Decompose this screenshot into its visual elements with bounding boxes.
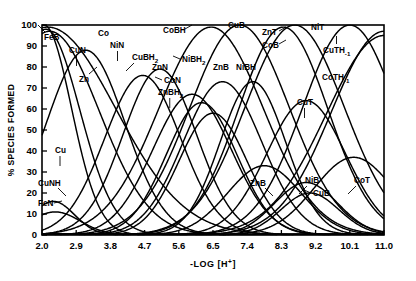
y-tick-label: 30 bbox=[26, 166, 37, 177]
x-tick-label: 3.8 bbox=[104, 240, 117, 251]
curve-label: Co bbox=[98, 29, 109, 38]
x-tick-label: 9.2 bbox=[309, 240, 322, 251]
y-tick-label: 100 bbox=[21, 19, 37, 30]
label-leader-line bbox=[348, 186, 356, 194]
x-axis-title: -LOG [H+] bbox=[190, 258, 236, 270]
y-tick-label: 70 bbox=[26, 82, 37, 93]
curve-label: CuB bbox=[228, 21, 245, 30]
y-tick-label: 0 bbox=[32, 229, 37, 240]
curve-label: ZnN bbox=[152, 63, 168, 72]
x-tick-label: 10.1 bbox=[341, 240, 360, 251]
curve-label: ZnT bbox=[262, 28, 277, 37]
curve-label: ZnBH2 bbox=[158, 88, 184, 99]
curve-label: CoBH bbox=[163, 26, 186, 35]
curve-label: FeB bbox=[44, 33, 60, 42]
label-leader-line bbox=[155, 77, 162, 80]
curve-label: CuN bbox=[69, 46, 86, 55]
curve-label: Zn bbox=[79, 75, 89, 84]
x-tick-label: 11.0 bbox=[375, 240, 393, 251]
speciation-diagram: 2.02.93.84.75.66.57.48.39.210.111.001020… bbox=[0, 0, 416, 281]
species-curve bbox=[42, 94, 384, 234]
label-leader-line bbox=[173, 56, 180, 59]
curve-label: NiBH bbox=[236, 63, 256, 72]
curve-label: NiB bbox=[305, 176, 319, 185]
curve-label: CoB bbox=[262, 41, 279, 50]
curve-label: CuT bbox=[297, 98, 313, 107]
curve-label: CuBH2 bbox=[132, 53, 159, 64]
curve-layer bbox=[42, 25, 384, 235]
x-tick-label: 2.0 bbox=[35, 240, 48, 251]
curve-label: NiBH2 bbox=[182, 55, 206, 66]
x-tick-label: 7.4 bbox=[241, 240, 255, 251]
curve-label: NiN bbox=[110, 41, 124, 50]
curve-label: CuNH bbox=[38, 179, 61, 188]
x-tick-label: 5.6 bbox=[172, 240, 185, 251]
x-tick-label: 4.7 bbox=[138, 240, 151, 251]
y-tick-label: 10 bbox=[26, 208, 37, 219]
chart-figure: 2.02.93.84.75.66.57.48.39.210.111.001020… bbox=[0, 0, 416, 281]
label-leader-line bbox=[279, 40, 286, 44]
y-tick-label: 40 bbox=[26, 145, 37, 156]
curve-label: CoN bbox=[164, 76, 181, 85]
x-tick-label: 2.9 bbox=[70, 240, 83, 251]
curve-label: CuB bbox=[313, 189, 330, 198]
curve-label: ZnB bbox=[213, 63, 229, 72]
x-tick-label: 6.5 bbox=[206, 240, 220, 251]
y-tick-label: 20 bbox=[26, 187, 37, 198]
x-tick-label: 8.3 bbox=[275, 240, 288, 251]
label-leader-line bbox=[58, 188, 66, 196]
curve-label: FeN bbox=[38, 199, 54, 208]
curve-label: ZnB bbox=[250, 179, 266, 188]
y-axis-title: % SPECIES FORMED bbox=[6, 84, 16, 176]
label-leader-line bbox=[126, 63, 134, 71]
curve-label: NiT bbox=[311, 23, 324, 32]
y-tick-label: 80 bbox=[26, 61, 37, 72]
curve-label: CuTH-1 bbox=[323, 46, 351, 57]
y-tick-label: 90 bbox=[26, 40, 37, 51]
y-tick-label: 60 bbox=[26, 103, 37, 114]
y-tick-label: 50 bbox=[26, 124, 37, 135]
curve-label: Cu bbox=[55, 146, 66, 155]
curve-label: CoT bbox=[354, 176, 370, 185]
